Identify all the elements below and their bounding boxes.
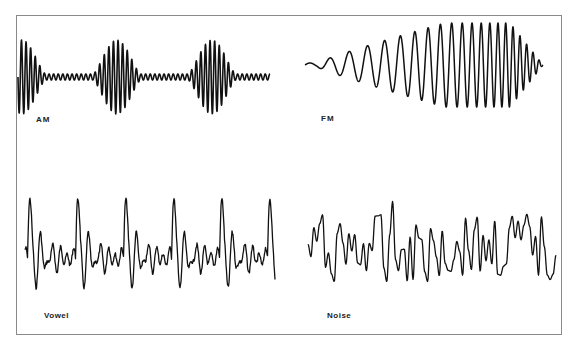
fm-waveform <box>305 20 560 105</box>
am-waveform <box>18 25 278 115</box>
fm-label: FM <box>321 114 335 123</box>
noise-label: Noise <box>327 311 351 320</box>
noise-waveform <box>308 180 558 305</box>
vowel-waveform <box>25 178 280 303</box>
am-label: AM <box>36 115 50 124</box>
vowel-label: Vowel <box>44 311 69 320</box>
